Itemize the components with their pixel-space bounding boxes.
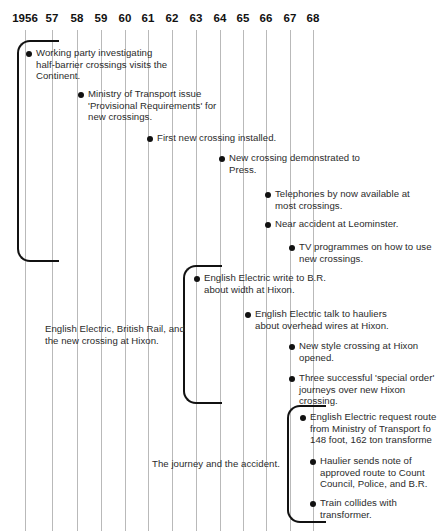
caption-english-electric-br-hixon: English Electric, British Rail, and the … xyxy=(45,323,245,346)
event-bullet-icon xyxy=(289,344,295,350)
event-first-new-crossing-installed: First new crossing installed. xyxy=(147,132,337,144)
gridline-1956 xyxy=(25,30,26,531)
event-train-collides: Train collides with transformer. xyxy=(310,497,441,520)
event-bullet-icon xyxy=(289,376,295,382)
event-bullet-icon xyxy=(310,501,316,507)
gridline-57 xyxy=(52,30,53,531)
event-bullet-icon xyxy=(194,276,200,282)
year-label-58: 58 xyxy=(70,12,83,24)
year-label-60: 60 xyxy=(118,12,131,24)
event-bullet-icon xyxy=(265,192,271,198)
event-bullet-icon xyxy=(265,222,271,228)
event-bullet-icon xyxy=(147,136,153,142)
year-label-59: 59 xyxy=(94,12,107,24)
event-working-party-continent: Working party investigating half-barrier… xyxy=(26,47,206,82)
event-label: English Electric talk to hauliers about … xyxy=(255,308,440,331)
event-label: Telephones by now available at most cros… xyxy=(275,188,440,211)
event-bullet-icon xyxy=(78,92,84,98)
event-ministry-provisional-requirements: Ministry of Transport issue 'Provisional… xyxy=(78,88,268,123)
event-ee-request-routes: English Electric request route from Mini… xyxy=(300,411,441,446)
event-label: English Electric write to B.R. about wid… xyxy=(204,272,394,295)
year-label-63: 63 xyxy=(189,12,202,24)
year-label-68: 68 xyxy=(306,12,319,24)
year-label-62: 62 xyxy=(165,12,178,24)
event-label: Working party investigating half-barrier… xyxy=(36,47,206,82)
event-bullet-icon xyxy=(245,312,251,318)
event-ee-write-to-br: English Electric write to B.R. about wid… xyxy=(194,272,394,295)
event-three-special-order-journeys: Three successful 'special order' journey… xyxy=(289,372,441,407)
event-label: TV programmes on how to use new crossing… xyxy=(299,241,441,264)
event-bullet-icon xyxy=(219,156,225,162)
year-label-64: 64 xyxy=(213,12,226,24)
year-label-67: 67 xyxy=(283,12,296,24)
event-tv-programmes: TV programmes on how to use new crossing… xyxy=(289,241,441,264)
event-bullet-icon xyxy=(289,245,295,251)
event-bullet-icon xyxy=(300,415,306,421)
event-ee-talk-to-hauliers: English Electric talk to hauliers about … xyxy=(245,308,440,331)
event-telephones-available: Telephones by now available at most cros… xyxy=(265,188,440,211)
year-label-61: 61 xyxy=(141,12,154,24)
event-label: New crossing demonstrated to Press. xyxy=(229,152,414,175)
event-label: First new crossing installed. xyxy=(157,132,337,144)
event-new-crossing-demonstrated: New crossing demonstrated to Press. xyxy=(219,152,414,175)
event-label: Three successful 'special order' journey… xyxy=(299,372,441,407)
year-label-66: 66 xyxy=(259,12,272,24)
caption-journey-accident: The journey and the accident. xyxy=(152,458,352,470)
event-near-accident-leominster: Near accident at Leominster. xyxy=(265,218,440,230)
event-label: New style crossing at Hixon opened. xyxy=(299,340,441,363)
event-bullet-icon xyxy=(26,51,32,57)
event-label: Train collides with transformer. xyxy=(320,497,441,520)
year-label-65: 65 xyxy=(236,12,249,24)
year-label-1956: 1956 xyxy=(12,12,38,24)
event-label: Ministry of Transport issue 'Provisional… xyxy=(88,88,268,123)
event-label: English Electric request route from Mini… xyxy=(310,411,441,446)
event-label: Near accident at Leominster. xyxy=(275,218,440,230)
event-new-style-crossing-opened: New style crossing at Hixon opened. xyxy=(289,340,441,363)
year-label-57: 57 xyxy=(45,12,58,24)
